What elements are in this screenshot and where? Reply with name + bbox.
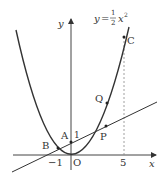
origin-label: O — [73, 157, 81, 168]
point-c-label: C — [127, 35, 135, 46]
tick-label-5: 5 — [120, 157, 126, 168]
y-axis-label: y — [57, 18, 64, 29]
point-a-dot — [70, 141, 73, 144]
point-b-dot — [57, 147, 60, 150]
curve-label-eq: = — [101, 13, 109, 24]
tick-label-y1: 1 — [74, 130, 80, 140]
point-p-label: P — [100, 131, 107, 142]
x-axis-label: x — [149, 158, 155, 169]
point-p-dot — [105, 125, 108, 128]
point-c-dot — [123, 36, 126, 39]
point-b-label: B — [42, 140, 49, 151]
line-ab — [12, 102, 157, 172]
point-q-label: Q — [95, 93, 103, 104]
curve-label-lhs: y — [93, 13, 100, 24]
diagram-canvas: y = 1 2 x 2 y x O −1 5 1 A B C P Q — [0, 0, 167, 183]
curve-label-exp: 2 — [124, 11, 128, 18]
point-a-label: A — [60, 130, 69, 141]
curve-label-den: 2 — [111, 19, 115, 27]
parabola-curve — [16, 27, 129, 154]
point-q-dot — [106, 102, 109, 105]
tick-label-neg1: −1 — [48, 157, 63, 168]
curve-label-num: 1 — [111, 9, 115, 17]
